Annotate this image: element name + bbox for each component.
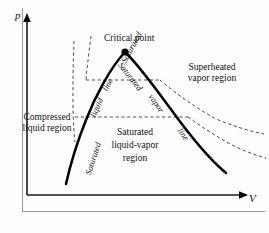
isotherm-compressed-right — [86, 36, 91, 80]
pv-diagram-figure: p V Critical point Compressed liquid reg… — [0, 0, 269, 233]
compressed-liquid-region-line2: liquid region — [8, 123, 86, 134]
saturated-mixture-region-line1: Saturated — [98, 127, 172, 138]
saturated-mixture-region-line3: region — [98, 153, 172, 164]
x-axis-label: V — [249, 192, 256, 204]
x-axis-arrowhead — [239, 191, 248, 199]
compressed-liquid-region-line1: Compressed — [8, 112, 86, 123]
isotherm-superheated-upper — [160, 80, 264, 134]
superheated-vapor-region-line1: Superheated — [168, 62, 256, 73]
y-axis-label: p — [15, 9, 21, 21]
saturated-mixture-region-line2: liquid-vapor — [98, 140, 172, 151]
y-axis-arrowhead — [23, 13, 31, 22]
isotherm-superheated-lower — [188, 117, 266, 158]
superheated-vapor-region-line2: vapor region — [168, 73, 256, 84]
